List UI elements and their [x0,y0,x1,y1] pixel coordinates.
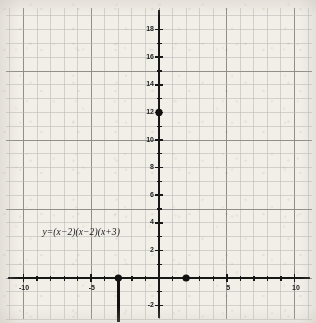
x-axis-label-neg10: -10 [19,284,29,291]
x-axis-label-neg5: -5 [89,284,95,291]
plot-point-y-intercept [155,109,162,116]
plot-point-root-x-2 [183,274,190,281]
plot-point-root-x-minus-3 [115,274,122,281]
y-axis-label-12: 12 [146,108,154,115]
equation-label: y=(x−2)(x−2)(x+3) [42,227,119,237]
y-axis-label-18: 18 [146,25,154,32]
graph-paper-canvas: y=(x−2)(x−2)(x+3) -10-551018161412108642… [0,0,316,323]
x-axis-label-10: 10 [292,284,300,291]
x-axis-label-5: 5 [226,284,230,291]
y-axis-label-2: 2 [150,246,154,253]
y-axis-label-14: 14 [146,80,154,87]
y-axis-label-4: 4 [150,218,154,225]
y-axis-label-10: 10 [146,136,154,143]
y-axis-label-6: 6 [150,191,154,198]
coordinate-plane [0,0,316,323]
y-axis-label-8: 8 [150,163,154,170]
y-axis-label-16: 16 [146,53,154,60]
y-axis-label-neg2: -2 [148,301,154,308]
